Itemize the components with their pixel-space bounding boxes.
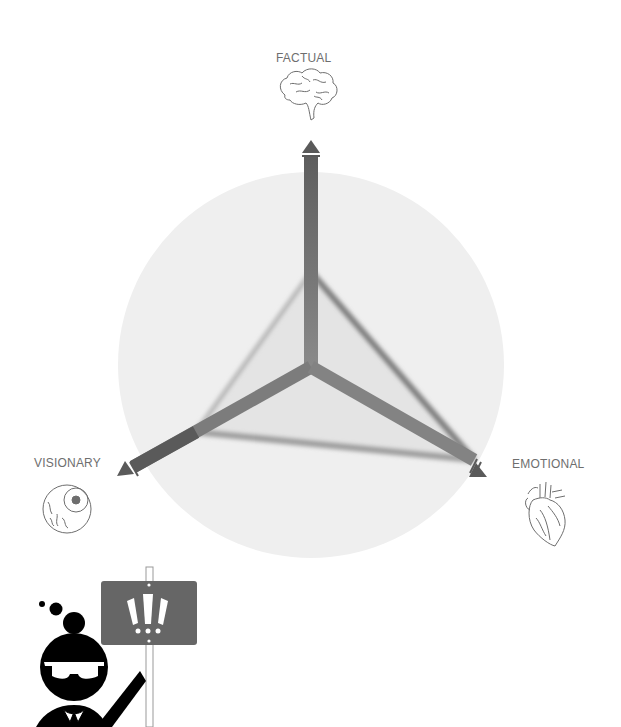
eyeball-icon <box>43 485 91 533</box>
scientist-figure <box>36 567 197 727</box>
brain-icon <box>280 69 337 120</box>
heart-icon <box>526 482 566 546</box>
axis-arrow-factual <box>302 140 320 157</box>
radar-chart <box>0 0 621 727</box>
